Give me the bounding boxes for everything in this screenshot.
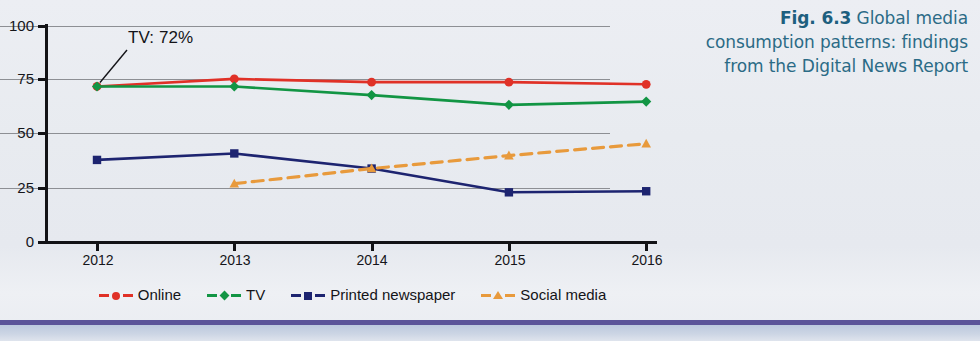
legend-item-social-media[interactable]: Social media <box>481 286 606 303</box>
data-point-printed-newspaper-2015 <box>505 188 513 196</box>
series-line-printed-newspaper <box>97 153 646 192</box>
legend-label: TV <box>246 286 265 303</box>
data-point-printed-newspaper-2012 <box>93 156 101 164</box>
legend-swatch-diamond-icon <box>207 289 241 301</box>
data-point-tv-2016 <box>641 97 651 107</box>
line-chart: 100 75 50 25 0 2012 2013 2014 2015 2016 … <box>0 0 700 318</box>
data-point-online-2014 <box>505 78 514 87</box>
legend-item-tv[interactable]: TV <box>207 286 265 303</box>
chart-legend: OnlineTVPrinted newspaperSocial media <box>45 286 660 303</box>
legend-item-printed-newspaper[interactable]: Printed newspaper <box>291 286 455 303</box>
annotation-tv-72: TV: 72% <box>128 28 193 48</box>
data-point-tv-2014 <box>367 90 377 100</box>
data-point-printed-newspaper-2016 <box>642 187 650 195</box>
legend-item-online[interactable]: Online <box>99 286 181 303</box>
legend-label: Social media <box>520 286 606 303</box>
data-point-tv-2012 <box>92 81 102 91</box>
data-point-online-2014 <box>367 78 376 87</box>
annotation-leader-line <box>100 50 127 82</box>
series-line-social-media <box>234 144 646 184</box>
page-footer-band <box>0 325 980 341</box>
data-point-online-2016 <box>642 80 651 89</box>
legend-label: Printed newspaper <box>330 286 455 303</box>
caption-label: Fig. 6.3 <box>780 8 851 28</box>
legend-label: Online <box>138 286 181 303</box>
figure-caption: Fig. 6.3 Global media consumption patter… <box>700 6 968 78</box>
legend-swatch-circle-icon <box>99 289 133 301</box>
figure-6-3: 100 75 50 25 0 2012 2013 2014 2015 2016 … <box>0 0 980 318</box>
data-point-social-media-2016 <box>641 139 651 148</box>
data-point-tv-2015 <box>504 100 514 110</box>
legend-swatch-triangle-icon <box>481 289 515 301</box>
data-point-printed-newspaper-2013 <box>230 149 238 157</box>
data-point-tv-2012 <box>229 81 239 91</box>
legend-swatch-square-icon <box>291 289 325 301</box>
